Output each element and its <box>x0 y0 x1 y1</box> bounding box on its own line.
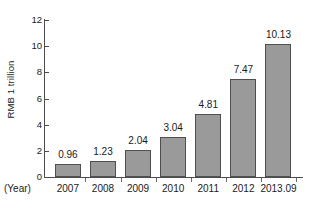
x-axis-tick-mark <box>296 178 297 182</box>
y-axis-tick-labels: 024681012 <box>22 0 42 206</box>
x-axis-tick-mark <box>85 178 86 182</box>
y-axis-tick-label: 4 <box>24 120 42 130</box>
bar-value-label: 7.47 <box>220 65 266 75</box>
bar <box>55 164 81 177</box>
bar <box>90 161 116 177</box>
y-axis-tick-label: 2 <box>24 146 42 156</box>
y-axis-tick-label: 10 <box>24 41 42 51</box>
bar <box>125 150 151 177</box>
x-axis-labels: (Year) 2007200820092010201120122013.09 <box>0 184 311 206</box>
x-axis-tick-mark <box>226 178 227 182</box>
bar <box>230 79 256 177</box>
x-axis-category-label: 2013.09 <box>250 184 306 194</box>
x-axis-tick-mark <box>191 178 192 182</box>
y-axis-tick-label: 0 <box>24 172 42 182</box>
x-axis-tick-mark <box>121 178 122 182</box>
y-axis-tick-label: 8 <box>24 67 42 77</box>
bar-value-label: 3.04 <box>150 123 196 133</box>
bar <box>195 114 221 177</box>
bar-value-label: 10.13 <box>255 30 301 40</box>
x-axis-tick-mark <box>156 178 157 182</box>
y-axis-tick-label: 12 <box>24 15 42 25</box>
x-axis-tick-mark <box>261 178 262 182</box>
bar-value-label: 1.23 <box>80 147 126 157</box>
y-axis-tick-label: 6 <box>24 94 42 104</box>
x-axis-unit-label: (Year) <box>4 184 31 194</box>
bar-chart: RMB 1 trillion 024681012 0.961.232.043.0… <box>0 0 311 206</box>
bar-value-label: 4.81 <box>185 100 231 110</box>
bar <box>265 44 291 177</box>
y-axis-title: RMB 1 trillion <box>0 0 22 178</box>
bar-value-label: 2.04 <box>115 136 161 146</box>
x-axis-line <box>44 177 303 178</box>
y-axis-title-text: RMB 1 trillion <box>6 60 17 118</box>
bar <box>160 137 186 177</box>
